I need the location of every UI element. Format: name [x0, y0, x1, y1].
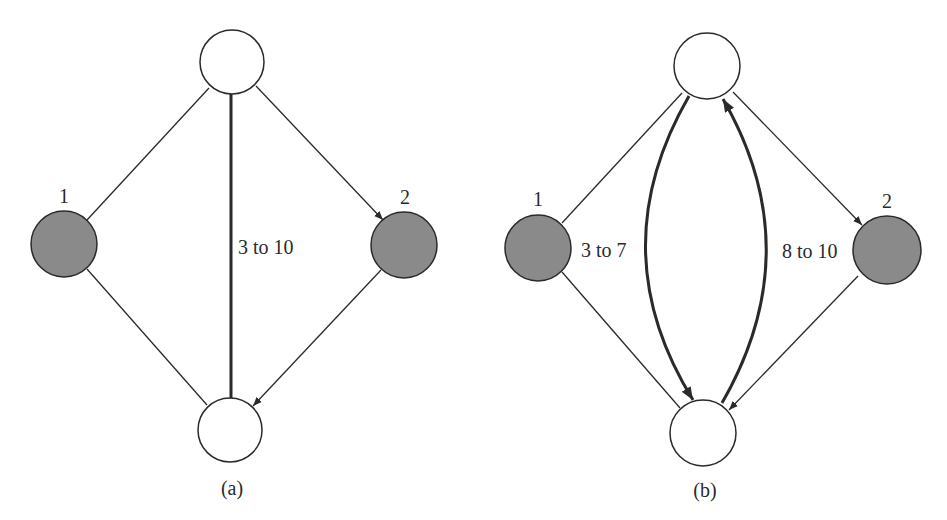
edge-label-8-to-10: 8 to 10 [782, 240, 838, 262]
edge-top-to-node1 [87, 88, 209, 220]
edge-node2-to-bottom-arrow [253, 270, 381, 406]
edge-label-3-to-7: 3 to 7 [581, 239, 627, 261]
node-top [200, 30, 264, 94]
node-1-shaded [31, 211, 97, 277]
node-bottom [670, 400, 736, 466]
node-2-label: 2 [400, 186, 410, 208]
edge-bottom-to-top-curved-arrow [722, 99, 766, 403]
edge-label-3-to-10: 3 to 10 [238, 236, 294, 258]
edge-top-to-bottom-curved-arrow [645, 96, 693, 400]
node-2-shaded [371, 212, 437, 278]
panel-b: 1 2 3 to 7 8 to 10 (b) [505, 33, 921, 502]
node-bottom [198, 398, 262, 462]
edge-top-to-node1 [562, 93, 682, 223]
edge-node1-to-bottom [87, 269, 207, 405]
panel-caption-a: (a) [221, 477, 243, 500]
node-top [674, 33, 740, 99]
node-1-label: 1 [59, 185, 69, 207]
diagram-canvas: 1 2 3 to 10 (a) 1 2 3 to 7 8 to 10 (b) [0, 0, 947, 520]
node-2-label: 2 [882, 190, 892, 212]
panel-a: 1 2 3 to 10 (a) [31, 30, 437, 500]
node-1-label: 1 [533, 188, 543, 210]
panel-caption-b: (b) [693, 479, 716, 502]
edge-top-to-node2-arrow [733, 92, 862, 225]
edge-top-to-node2-arrow [256, 86, 383, 220]
node-1-shaded [505, 215, 571, 281]
node-2-shaded [853, 216, 921, 284]
